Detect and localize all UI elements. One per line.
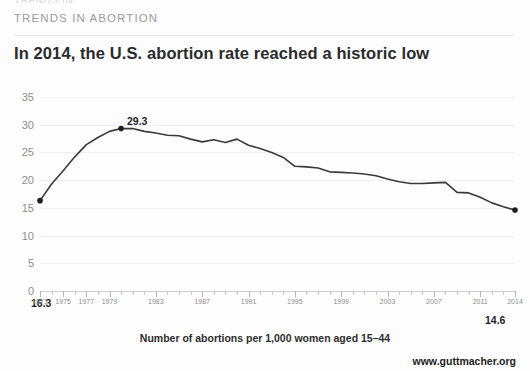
x-axis-tick-label: 1983: [148, 298, 164, 305]
x-axis-tick: [503, 291, 504, 295]
clipped-top-text: TRENDS IN: [14, 0, 73, 3]
x-axis-tick-label: 1991: [241, 298, 257, 305]
x-axis-tick: [283, 291, 284, 295]
x-axis-tick: [40, 291, 41, 297]
chart-caption: Number of abortions per 1,000 women aged…: [0, 332, 530, 344]
x-axis-tick-label: 1979: [102, 298, 118, 305]
x-axis-tick-label: 2014: [507, 298, 523, 305]
x-axis-tick: [133, 291, 134, 295]
y-axis-tick-label: 20: [4, 174, 34, 186]
x-axis-tick: [376, 291, 377, 295]
chart-area: 05101520253035 16.3 29.3 14.6 1973197519…: [0, 85, 530, 310]
x-axis-tick: [52, 291, 53, 295]
y-axis-tick-label: 35: [4, 91, 34, 103]
annotation-peak: 29.3: [127, 115, 147, 127]
x-axis-tick: [156, 291, 157, 297]
y-axis-tick-label: 5: [4, 257, 34, 269]
x-axis-tick: [167, 291, 168, 295]
x-axis-tick: [110, 291, 111, 297]
y-axis-tick-label: 30: [4, 119, 34, 131]
y-axis-tick-label: 25: [4, 146, 34, 158]
x-axis-line: [40, 291, 515, 292]
x-axis-tick: [411, 291, 412, 295]
x-axis-tick-label: 1975: [55, 298, 71, 305]
x-axis-tick: [191, 291, 192, 295]
x-axis-tick: [399, 291, 400, 295]
x-axis-tick: [445, 291, 446, 295]
y-axis-tick-label: 15: [4, 202, 34, 214]
source-footer: www.guttmacher.org: [413, 355, 516, 367]
x-axis-tick-label: 1999: [333, 298, 349, 305]
x-axis-tick: [422, 291, 423, 295]
x-axis-tick: [121, 291, 122, 295]
page-title: In 2014, the U.S. abortion rate reached …: [14, 44, 429, 63]
x-axis-tick: [249, 291, 250, 297]
data-point-marker: [512, 207, 518, 213]
x-axis-tick: [237, 291, 238, 295]
x-axis-tick-label: 2007: [426, 298, 442, 305]
x-axis-tick: [75, 291, 76, 295]
x-axis-tick: [202, 291, 203, 297]
line-series: [40, 97, 515, 291]
x-axis-tick: [492, 291, 493, 295]
x-axis-tick: [214, 291, 215, 295]
kicker-label: TRENDS IN ABORTION: [14, 12, 158, 24]
y-axis: 05101520253035: [0, 97, 34, 291]
x-axis-tick-label: 1977: [79, 298, 95, 305]
x-axis-tick: [353, 291, 354, 295]
x-axis-tick: [63, 291, 64, 297]
x-axis-tick: [457, 291, 458, 295]
x-axis-tick-label: 2011: [473, 298, 488, 305]
x-axis-tick-label: 1973: [32, 298, 48, 305]
data-point-marker: [118, 126, 124, 132]
x-axis-tick: [179, 291, 180, 295]
x-axis-tick: [98, 291, 99, 295]
x-axis-tick-label: 2003: [380, 298, 396, 305]
y-axis-tick-label: 10: [4, 230, 34, 242]
x-axis-tick: [480, 291, 481, 297]
x-axis-tick: [295, 291, 296, 297]
x-axis-tick: [260, 291, 261, 295]
x-axis-tick-label: 1995: [287, 298, 303, 305]
x-axis-tick: [388, 291, 389, 297]
x-axis-tick: [364, 291, 365, 295]
x-axis-tick: [225, 291, 226, 295]
x-axis-tick: [306, 291, 307, 295]
data-point-marker: [37, 198, 43, 204]
x-axis-tick: [144, 291, 145, 295]
annotation-end: 14.6: [485, 314, 505, 326]
x-axis-tick-label: 1987: [194, 298, 210, 305]
x-axis-tick: [434, 291, 435, 297]
x-axis-tick: [272, 291, 273, 295]
x-axis-tick: [469, 291, 470, 295]
data-line: [40, 129, 515, 210]
x-axis-tick: [318, 291, 319, 295]
kicker-divider: [14, 35, 514, 36]
y-axis-tick-label: 0: [4, 285, 34, 297]
x-axis-tick: [341, 291, 342, 297]
x-axis-tick: [515, 291, 516, 297]
chart-page: TRENDS IN TRENDS IN ABORTION In 2014, th…: [0, 0, 530, 371]
x-axis-tick: [330, 291, 331, 295]
x-axis-tick: [86, 291, 87, 297]
